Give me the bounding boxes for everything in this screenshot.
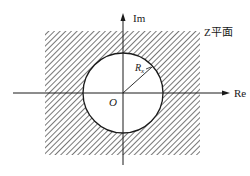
re-axis-label: Re xyxy=(234,87,246,99)
origin-label: O xyxy=(109,96,117,108)
plane-title: Z平面 xyxy=(204,26,233,38)
real-axis-arrow-icon xyxy=(222,91,230,96)
imaginary-axis-arrow-icon xyxy=(121,13,126,21)
z-plane-diagram: Im Re O Z平面 Rx xyxy=(0,0,250,176)
im-axis-label: Im xyxy=(133,12,146,24)
